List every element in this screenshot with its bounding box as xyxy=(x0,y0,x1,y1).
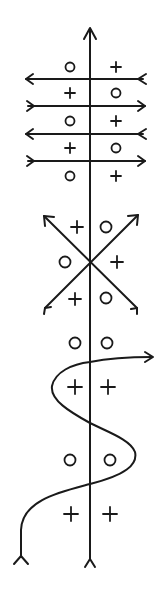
circle-symbol-icon xyxy=(112,144,121,153)
plus-symbol-icon xyxy=(111,171,121,181)
horizontal-arrow-left xyxy=(26,129,146,139)
plus-symbol-icon xyxy=(64,507,78,521)
horizontal-arrow-right xyxy=(27,156,145,166)
circle-symbol-icon xyxy=(66,117,75,126)
plus-symbol-icon xyxy=(69,293,81,305)
sinuous-arrow xyxy=(21,357,152,557)
plus-symbol-icon xyxy=(103,507,117,521)
circle-symbol-icon xyxy=(70,338,81,349)
circle-symbol-icon xyxy=(66,172,75,181)
plus-symbol-icon xyxy=(111,62,121,72)
pedagogical-vector-diagram xyxy=(0,0,163,606)
parallel-arrows-section xyxy=(26,62,146,181)
plus-symbol-icon xyxy=(65,143,75,153)
axis-fletching-icon xyxy=(85,559,95,567)
plus-symbol-icon xyxy=(111,116,121,126)
plus-symbol-icon xyxy=(101,380,115,394)
plus-symbol-icon xyxy=(65,88,75,98)
horizontal-arrow-right xyxy=(27,101,145,111)
circle-symbol-icon xyxy=(60,257,71,268)
plus-symbol-icon xyxy=(111,256,123,268)
circle-symbol-icon xyxy=(101,293,112,304)
horizontal-arrow-left xyxy=(26,74,146,84)
circle-symbol-icon xyxy=(65,455,76,466)
curve-fletching-icon xyxy=(14,556,28,564)
circle-symbol-icon xyxy=(101,222,112,233)
vertical-axis xyxy=(84,28,96,567)
circle-symbol-icon xyxy=(66,63,75,72)
plus-symbol-icon xyxy=(68,380,82,394)
sine-curve-section xyxy=(14,338,153,565)
circle-symbol-icon xyxy=(112,89,121,98)
circle-symbol-icon xyxy=(102,338,113,349)
circle-symbol-icon xyxy=(105,455,116,466)
plus-symbol-icon xyxy=(71,221,83,233)
